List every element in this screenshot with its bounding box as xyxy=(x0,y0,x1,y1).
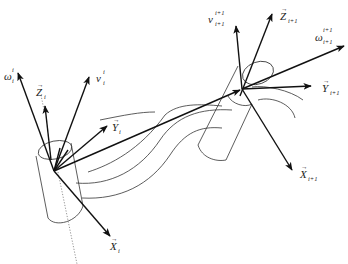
v-i1-arrow xyxy=(236,26,242,89)
joint-i-cylinder xyxy=(36,95,83,264)
x-i1-arrow xyxy=(242,89,292,170)
svg-text:i: i xyxy=(119,128,121,135)
joint-i1-cylinder xyxy=(198,57,277,160)
svg-text:i: i xyxy=(103,68,105,75)
svg-text:i+1: i+1 xyxy=(330,89,339,96)
svg-text:→: → xyxy=(111,235,118,242)
kinematic-link-diagram: ω i i Z i → v i i Y i → X i → v i+1 i+1 … xyxy=(0,0,348,264)
svg-text:i: i xyxy=(12,66,14,73)
label-z-i1: Z i+1 → xyxy=(280,5,297,24)
label-omega-i: ω i i xyxy=(4,66,14,84)
svg-text:i+1: i+1 xyxy=(323,26,332,33)
svg-text:→: → xyxy=(301,163,308,170)
label-y-i: Y i → xyxy=(112,116,121,135)
label-y-i1: Y i+1 → xyxy=(322,77,339,96)
svg-text:i+1: i+1 xyxy=(288,17,297,24)
label-x-i: X i → xyxy=(109,235,120,254)
svg-text:i: i xyxy=(44,93,46,100)
svg-text:i: i xyxy=(118,247,120,254)
svg-text:→: → xyxy=(281,5,288,12)
label-v-i1: v i+1 i+1 xyxy=(208,9,224,27)
svg-text:i+1: i+1 xyxy=(215,20,224,27)
svg-text:v: v xyxy=(208,13,213,25)
label-z-i: Z i → xyxy=(36,81,46,100)
frame-i-vectors xyxy=(18,73,110,236)
svg-text:i+1: i+1 xyxy=(323,38,332,45)
svg-text:i+1: i+1 xyxy=(308,175,317,182)
svg-text:→: → xyxy=(37,81,44,88)
svg-text:i: i xyxy=(12,77,14,84)
label-omega-i1: ω i+1 i+1 xyxy=(315,26,332,45)
svg-text:v: v xyxy=(96,72,101,84)
svg-text:→: → xyxy=(323,77,330,84)
svg-text:i+1: i+1 xyxy=(215,9,224,16)
svg-text:i: i xyxy=(103,79,105,86)
x-i-arrow xyxy=(54,171,110,236)
label-x-i1: X i+1 → xyxy=(299,163,317,182)
svg-text:ω: ω xyxy=(315,31,323,43)
link-body xyxy=(76,87,303,199)
label-v-i: v i i xyxy=(96,68,105,86)
z-i-arrow xyxy=(45,106,51,160)
svg-text:→: → xyxy=(113,116,120,123)
svg-text:ω: ω xyxy=(4,70,12,82)
